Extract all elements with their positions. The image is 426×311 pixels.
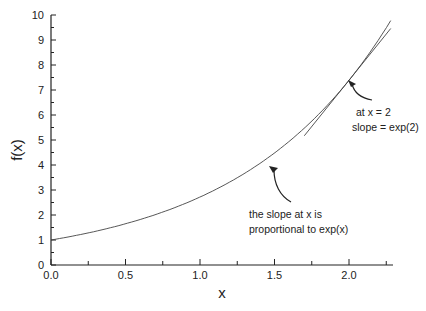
y-tick-label: 3 xyxy=(38,184,44,196)
y-tick-label: 9 xyxy=(38,34,44,46)
annotation-slope: the slope at x is proportional to exp(x) xyxy=(249,166,348,235)
exp-curve xyxy=(51,21,391,240)
y-tick-label: 5 xyxy=(38,134,44,146)
y-tick-label: 7 xyxy=(38,84,44,96)
arrowhead-icon xyxy=(269,166,278,173)
y-ticks: 012345678910 xyxy=(32,9,56,271)
x-tick-label: 1.0 xyxy=(192,269,207,281)
x-ticks: 0.00.51.01.52.0 xyxy=(43,259,386,281)
y-tick-label: 4 xyxy=(38,159,44,171)
y-axis-title: f(x) xyxy=(8,139,25,161)
tangent-line xyxy=(304,29,390,136)
annotation-text-line2: proportional to exp(x) xyxy=(249,223,348,235)
y-tick-label: 1 xyxy=(38,234,44,246)
arrowhead-icon xyxy=(348,80,356,87)
x-tick-label: 1.5 xyxy=(267,269,282,281)
annotation-text-line1: the slope at x is xyxy=(249,208,322,220)
annotation-text-line2: slope = exp(2) xyxy=(352,121,419,133)
arrow-icon xyxy=(352,84,372,100)
annotation-tangent: at x = 2 slope = exp(2) xyxy=(348,80,419,133)
x-tick-label: 0.5 xyxy=(118,269,133,281)
arrow-icon xyxy=(274,170,291,202)
annotation-text-line1: at x = 2 xyxy=(356,106,391,118)
y-tick-label: 8 xyxy=(38,59,44,71)
x-tick-label: 2.0 xyxy=(341,269,356,281)
y-tick-label: 10 xyxy=(32,9,44,21)
x-tick-label: 0.0 xyxy=(43,269,58,281)
chart: 012345678910 0.00.51.01.52.0 x f(x) at x… xyxy=(0,0,426,311)
y-tick-label: 2 xyxy=(38,209,44,221)
y-tick-label: 6 xyxy=(38,109,44,121)
x-axis-title: x xyxy=(218,284,226,301)
